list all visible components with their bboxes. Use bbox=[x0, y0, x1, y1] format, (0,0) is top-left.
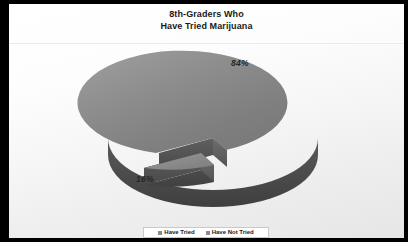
slide-frame: 8th-Graders Who Have Tried Marijuana bbox=[0, 0, 408, 242]
pie-chart-graphic bbox=[9, 46, 404, 224]
chart-title-line-2: Have Tried Marijuana bbox=[9, 21, 404, 33]
chart-title-line-1: 8th-Graders Who bbox=[9, 9, 404, 21]
legend-label-have-tried: Have Tried bbox=[164, 229, 194, 236]
chart-canvas: 8th-Graders Who Have Tried Marijuana bbox=[9, 4, 404, 238]
legend-item-have-tried[interactable]: Have Tried bbox=[158, 229, 194, 236]
chart-title: 8th-Graders Who Have Tried Marijuana bbox=[9, 9, 404, 32]
title-divider-rule bbox=[9, 41, 404, 44]
chart-legend: Have Tried Have Not Tried bbox=[143, 227, 269, 238]
legend-swatch-icon-have-tried bbox=[158, 231, 162, 235]
data-label-have-tried: 84% bbox=[231, 58, 249, 68]
data-label-have-not-tried: 16% bbox=[136, 174, 154, 184]
pie-chart-plot-area: 84% 16% bbox=[9, 46, 404, 224]
legend-label-have-not-tried: Have Not Tried bbox=[212, 229, 254, 236]
legend-swatch-icon-have-not-tried bbox=[206, 231, 210, 235]
legend-item-have-not-tried[interactable]: Have Not Tried bbox=[206, 229, 254, 236]
